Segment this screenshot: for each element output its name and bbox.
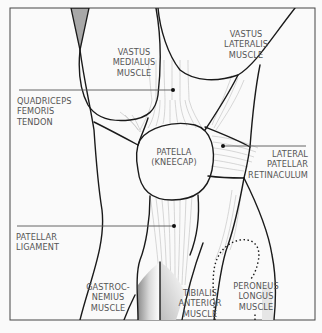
label-tibialis-anterior: TIBIALIS ANTERIOR MUSCLE (174, 288, 226, 319)
ligament-leader-dot (172, 224, 176, 228)
label-lateral-retinaculum: LATERAL PATELLAR RETINACULUM (228, 149, 308, 180)
label-gastrocnemius: GASTROC- NEMIUS MUSCLE (82, 282, 134, 313)
retinaculum-leader-dot (221, 144, 225, 148)
label-patella: PATELLA (KNEECAP) (138, 147, 210, 168)
label-vastus-medialus: VASTUS MEDIALUS MUSCLE (98, 47, 170, 78)
label-patellar-ligament: PATELLAR LIGAMENT (16, 232, 59, 253)
label-peroneus-longus: PERONEUS LONGUS MUSCLE (227, 281, 285, 312)
label-quadriceps-tendon: QUADRICEPS FEMORIS TENDON (17, 96, 71, 127)
quadriceps-leader-dot (171, 88, 175, 92)
label-vastus-lateralis: VASTUS LATERALIS MUSCLE (210, 29, 282, 60)
